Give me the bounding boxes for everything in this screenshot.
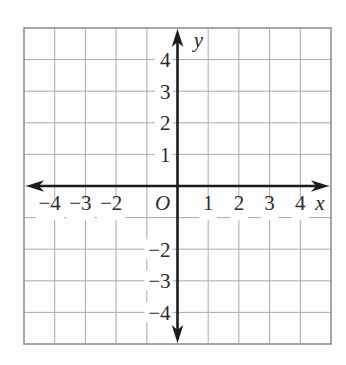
x-axis-label: x bbox=[314, 191, 325, 215]
y-tick-label: 1 bbox=[160, 143, 171, 167]
x-tick-label: 2 bbox=[234, 191, 245, 215]
y-tick-label: −4 bbox=[148, 301, 171, 325]
x-tick-label: 1 bbox=[203, 191, 214, 215]
y-tick-label: 4 bbox=[160, 48, 171, 72]
x-tick-label: 4 bbox=[295, 191, 306, 215]
figure-background bbox=[0, 0, 346, 365]
y-axis-label: y bbox=[192, 28, 204, 52]
origin-label: O bbox=[155, 191, 170, 215]
y-tick-label: 3 bbox=[160, 80, 171, 104]
coordinate-plane-figure: 4321−2−3−4−4−3−21234Oxy bbox=[0, 0, 346, 365]
coordinate-grid: 4321−2−3−4−4−3−21234Oxy bbox=[0, 0, 346, 365]
x-tick-label: −3 bbox=[69, 191, 91, 215]
x-tick-label: 3 bbox=[264, 191, 275, 215]
y-tick-label: −3 bbox=[148, 269, 170, 293]
x-tick-label: −4 bbox=[39, 191, 62, 215]
x-tick-label: −2 bbox=[100, 191, 122, 215]
y-tick-label: 2 bbox=[160, 111, 171, 135]
y-tick-label: −2 bbox=[148, 238, 170, 262]
